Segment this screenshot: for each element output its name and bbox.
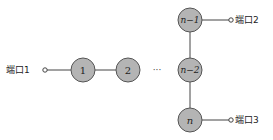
- node-n-minus-1: n−1: [178, 8, 202, 32]
- port2-label: 端口2: [235, 14, 259, 25]
- port3-terminal: [229, 118, 233, 122]
- ellipsis: ···: [153, 65, 162, 75]
- node-n-label: n: [187, 115, 193, 126]
- node-n-minus-2: n−2: [178, 58, 202, 82]
- node-2: 2: [116, 58, 140, 82]
- port1-terminal: [43, 68, 47, 72]
- node-1: 1: [71, 58, 95, 82]
- port1-label: 端口1: [6, 64, 30, 75]
- node-n-minus-1-label: n−1: [180, 15, 199, 25]
- node-n-minus-2-label: n−2: [180, 65, 199, 75]
- port3-label: 端口3: [235, 114, 259, 125]
- node-2-label: 2: [125, 65, 131, 76]
- port2-terminal: [229, 18, 233, 22]
- network-diagram: 端口1 端口2 端口3 1 2 ··· n−2 n−1 n: [0, 0, 273, 140]
- node-n: n: [178, 108, 202, 132]
- node-1-label: 1: [80, 65, 86, 76]
